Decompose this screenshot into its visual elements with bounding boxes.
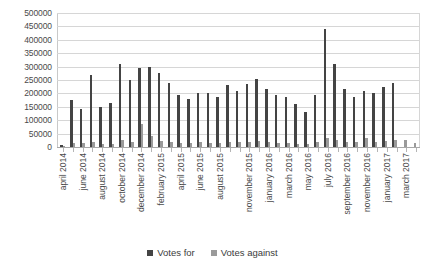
x-axis-tick-label: june 2015 xyxy=(196,153,205,190)
bar-votes-against xyxy=(229,142,232,147)
bar-votes-for xyxy=(372,93,375,147)
bar-votes-against xyxy=(238,142,241,147)
bar-votes-against xyxy=(248,142,251,147)
x-axis-tick-label: march 2016 xyxy=(284,153,293,198)
bar-votes-for xyxy=(168,83,171,147)
x-axis-tick-label: may 2016 xyxy=(304,153,313,190)
x-axis-tick-label: january 2017 xyxy=(382,153,391,202)
bar-group xyxy=(380,13,390,147)
bar-votes-for xyxy=(129,80,132,147)
bar-votes-for xyxy=(382,87,385,147)
bar-votes-against xyxy=(365,138,368,147)
bar-votes-against xyxy=(151,136,154,147)
x-axis-label-slot xyxy=(313,152,323,227)
bar-votes-for xyxy=(333,64,336,147)
bar-votes-for xyxy=(109,103,112,147)
bar-votes-against xyxy=(170,142,173,147)
bar-votes-for xyxy=(187,99,190,147)
x-axis-tick-label: august 2015 xyxy=(215,153,224,200)
bar-group xyxy=(351,13,361,147)
bar-votes-for xyxy=(265,89,268,147)
bar-group xyxy=(175,13,185,147)
x-axis-label-slot: december 2014 xyxy=(137,152,147,227)
bar-votes-against xyxy=(258,141,261,147)
x-axis-label-slot xyxy=(107,152,117,227)
x-axis-label-slot: november 2015 xyxy=(244,152,254,227)
bar-votes-for xyxy=(343,89,346,147)
bar-group xyxy=(399,13,409,147)
x-axis-label-slot xyxy=(274,152,284,227)
x-axis-tick-label: august 2014 xyxy=(98,153,107,200)
bar-votes-against xyxy=(63,146,66,147)
bar-votes-for xyxy=(246,84,249,147)
bar-votes-for xyxy=(236,91,239,147)
bar-votes-against xyxy=(219,143,222,147)
bar-votes-against xyxy=(199,142,202,147)
x-axis-label-slot: november 2016 xyxy=(362,152,372,227)
bar-group xyxy=(58,13,68,147)
bar-group xyxy=(243,13,253,147)
bar-group xyxy=(409,13,419,147)
y-axis-tick-label: 200000 xyxy=(24,89,52,98)
bar-group xyxy=(165,13,175,147)
bar-group xyxy=(370,13,380,147)
bar-group xyxy=(253,13,263,147)
bar-votes-for xyxy=(99,107,102,147)
x-axis-label-slot xyxy=(225,152,235,227)
bar-votes-for xyxy=(80,109,83,147)
x-axis-label-slot: may 2016 xyxy=(303,152,313,227)
bar-group xyxy=(156,13,166,147)
x-axis-label-slot: july 2016 xyxy=(323,152,333,227)
legend-swatch-icon-votes-against xyxy=(211,250,217,256)
bar-votes-against xyxy=(307,144,310,147)
x-axis-tick-label: june 2014 xyxy=(78,153,87,190)
bar-votes-for xyxy=(148,67,151,147)
bar-votes-against xyxy=(92,142,95,147)
bar-votes-against xyxy=(375,142,378,147)
bar-group xyxy=(117,13,127,147)
bar-votes-for xyxy=(207,93,210,147)
x-axis-tick-label: april 2015 xyxy=(176,153,185,190)
x-axis-label-slot: june 2015 xyxy=(195,152,205,227)
x-axis-label-slot: january 2017 xyxy=(382,152,392,227)
x-axis-label-slot: february 2015 xyxy=(156,152,166,227)
legend-label-votes-for: Votes for xyxy=(157,247,195,258)
legend-swatch-icon-votes-for xyxy=(147,250,153,256)
x-axis-tick-label: september 2016 xyxy=(343,153,352,214)
bar-votes-against xyxy=(385,141,388,147)
y-axis-tick-label: 400000 xyxy=(24,35,52,44)
x-axis-label-slot: june 2014 xyxy=(78,152,88,227)
bar-group xyxy=(341,13,351,147)
x-axis-label-slot: september 2016 xyxy=(343,152,353,227)
bar-votes-for xyxy=(90,75,93,147)
bar-votes-for xyxy=(294,104,297,147)
x-axis-label-slot xyxy=(166,152,176,227)
y-axis-tick-label: 500000 xyxy=(24,9,52,18)
bar-votes-for xyxy=(226,85,229,147)
bar-votes-for xyxy=(324,29,327,147)
bar-votes-against xyxy=(326,138,329,147)
x-axis-label-slot: april 2014 xyxy=(58,152,68,227)
bar-votes-for xyxy=(304,112,307,147)
bar-votes-for xyxy=(285,97,288,147)
x-axis-label-slot xyxy=(68,152,78,227)
x-axis-tick-label: july 2016 xyxy=(323,153,332,187)
bar-group xyxy=(292,13,302,147)
legend-label-votes-against: Votes against xyxy=(221,247,278,258)
y-axis-tick-label: 250000 xyxy=(24,76,52,85)
bar-group xyxy=(302,13,312,147)
y-axis-tick-label: 50000 xyxy=(29,129,52,138)
bar-group xyxy=(87,13,97,147)
y-axis-tick-label: 450000 xyxy=(24,22,52,31)
bar-votes-against xyxy=(316,142,319,147)
x-axis-label-slot: march 2016 xyxy=(284,152,294,227)
bar-votes-against xyxy=(336,140,339,147)
x-axis-tick-label: march 2017 xyxy=(402,153,411,198)
bar-votes-against xyxy=(355,142,358,147)
bar-votes-for xyxy=(158,73,161,147)
bar-votes-against xyxy=(346,142,349,147)
bar-group xyxy=(146,13,156,147)
bar-group xyxy=(390,13,400,147)
bar-votes-against xyxy=(121,140,124,147)
bar-votes-for xyxy=(353,97,356,147)
